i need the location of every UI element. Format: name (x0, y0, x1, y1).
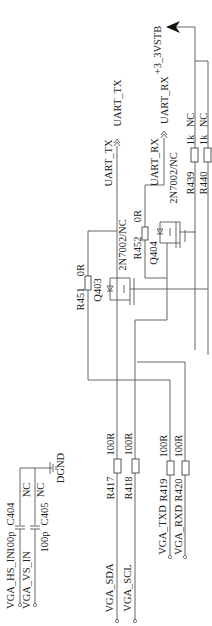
r419-ref: R419 (158, 479, 169, 502)
c405-note: NC (35, 483, 46, 498)
r451-ref: R451 (75, 288, 86, 311)
vga-scl-label: VGA_SCL (122, 564, 133, 611)
c405-value: 100p (39, 532, 50, 553)
r418-ref: R418 (123, 477, 134, 500)
c404-note: NC (21, 483, 32, 498)
power-label: +3_3VSTB (152, 26, 163, 75)
vga-txd-label: VGA_TXD (157, 505, 168, 555)
c404-ref: C404 (5, 502, 16, 526)
uart-rx-offpage-label: UART_RX (159, 76, 170, 124)
r439-value: 1k (185, 134, 196, 145)
uart-tx-net-label: UART_TX (103, 139, 114, 187)
c404-value: 100p (5, 532, 16, 553)
schematic-canvas: +3_3VSTB R439 1k NC R440 1k NC UART_TX U… (0, 0, 212, 626)
resistor-r439 (191, 148, 198, 162)
r419-value: 100R (158, 435, 169, 458)
vga-vs-in-label: VGA_VS_IN (21, 551, 32, 609)
r417-ref: R417 (105, 477, 116, 500)
q404-part: 2N7002/NC (168, 152, 179, 203)
c405-ref: C405 (39, 503, 50, 526)
vga-sda-label: VGA_SDA (104, 563, 115, 612)
resistor-r440 (204, 148, 211, 162)
r440-note: NC (198, 113, 209, 128)
vga-rxd-label: VGA_RXD (173, 505, 184, 556)
q403-part: 2N7002/NC (117, 219, 128, 270)
q404-ref: Q404 (148, 241, 159, 265)
q403-ref: Q403 (92, 278, 103, 301)
r440-ref: R440 (198, 172, 209, 195)
r452-ref: R452 (132, 237, 143, 260)
r420-value: 100R (173, 435, 184, 458)
r452-value: 0R (132, 210, 143, 222)
uart-tx-offpage-label: UART_TX (112, 79, 123, 127)
r417-value: 100R (105, 433, 116, 456)
r420-ref: R420 (173, 479, 184, 502)
r418-value: 100R (123, 433, 134, 456)
uart-rx-net-label: UART_RX (149, 138, 160, 186)
r439-ref: R439 (185, 172, 196, 195)
r439-note: NC (185, 113, 196, 128)
ground-label: DGND (55, 452, 66, 483)
vga-hs-in-label: VGA_HS_IN (5, 551, 16, 609)
r440-value: 1k (198, 134, 209, 145)
mosfet-q403 (85, 231, 208, 620)
r451-value: 0R (75, 264, 86, 276)
